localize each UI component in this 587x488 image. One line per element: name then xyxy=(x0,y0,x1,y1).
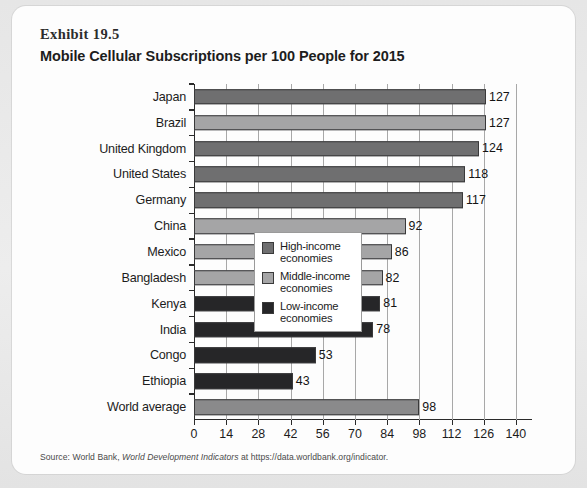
source-italic-title: World Development Indicators xyxy=(122,452,239,462)
source-note: Source: World Bank, World Development In… xyxy=(40,452,388,462)
x-axis-tick xyxy=(484,420,485,425)
x-axis-tick-label: 70 xyxy=(348,427,362,441)
legend-swatch-middle-icon xyxy=(262,272,274,284)
x-axis-tick-label: 14 xyxy=(219,427,233,441)
bar-value-label: 86 xyxy=(395,245,409,259)
y-axis-tick xyxy=(189,213,194,214)
bar-row: India78 xyxy=(194,317,532,343)
bar-row: Bangladesh82 xyxy=(194,265,532,291)
category-label: Bangladesh xyxy=(121,271,186,285)
x-axis-tick-label: 112 xyxy=(442,427,462,441)
bar: 124 xyxy=(194,141,479,157)
category-label: Ethiopia xyxy=(142,374,186,388)
bar: 117 xyxy=(194,193,463,209)
bar-row: United States118 xyxy=(194,162,532,188)
bar: 98 xyxy=(194,399,419,415)
bar-row: Japan127 xyxy=(194,84,532,110)
bar-value-label: 118 xyxy=(468,167,488,181)
y-axis-tick xyxy=(189,109,194,110)
category-label: Brazil xyxy=(156,116,186,130)
legend-label-low: Low-income economies xyxy=(280,300,354,325)
bar: 127 xyxy=(194,115,486,131)
bar-value-label: 81 xyxy=(383,297,397,311)
bar-chart: Japan127Brazil127United Kingdom124United… xyxy=(12,6,575,474)
x-axis-tick-label: 56 xyxy=(316,427,330,441)
bar-value-label: 98 xyxy=(422,400,436,414)
bar-row: Mexico86 xyxy=(194,239,532,265)
y-axis-tick xyxy=(189,83,194,84)
bar-row: Brazil127 xyxy=(194,110,532,136)
y-axis-tick xyxy=(189,368,194,369)
x-axis-tick-label: 98 xyxy=(412,427,426,441)
bars-layer: Japan127Brazil127United Kingdom124United… xyxy=(194,84,532,420)
category-label: Congo xyxy=(150,348,186,362)
x-axis-tick xyxy=(355,420,356,425)
bar-row: Germany117 xyxy=(194,187,532,213)
bar: 53 xyxy=(194,348,316,364)
category-label: China xyxy=(154,219,186,233)
bar: 43 xyxy=(194,373,293,389)
bar-row: United Kingdom124 xyxy=(194,136,532,162)
x-axis-tick-label: 84 xyxy=(380,427,394,441)
source-prefix: Source: World Bank, xyxy=(40,452,122,462)
category-label: Kenya xyxy=(151,297,186,311)
x-axis-tick-label: 42 xyxy=(284,427,298,441)
category-label: India xyxy=(160,323,186,337)
bar-value-label: 124 xyxy=(482,142,503,156)
bar: 118 xyxy=(194,167,465,183)
bar-value-label: 78 xyxy=(376,323,390,337)
x-axis-tick xyxy=(516,420,517,425)
bar-row: World average98 xyxy=(194,394,532,420)
x-axis-tick xyxy=(226,420,227,425)
category-label: World average xyxy=(107,400,186,414)
bar-row: Kenya81 xyxy=(194,291,532,317)
category-label: United States xyxy=(113,167,186,181)
x-axis-tick xyxy=(194,420,195,425)
y-axis-tick xyxy=(189,161,194,162)
x-axis-tick xyxy=(291,420,292,425)
bar-value-label: 53 xyxy=(319,348,333,362)
y-axis-tick xyxy=(189,290,194,291)
x-axis-tick-label: 28 xyxy=(251,427,265,441)
bar-value-label: 43 xyxy=(296,374,310,388)
legend-label-high: High-income economies xyxy=(280,240,354,265)
y-axis-tick xyxy=(189,238,194,239)
bar-value-label: 127 xyxy=(489,116,510,130)
x-axis-tick xyxy=(387,420,388,425)
page-background: Exhibit 19.5 Mobile Cellular Subscriptio… xyxy=(0,0,587,488)
legend-swatch-low-icon xyxy=(262,302,274,314)
x-axis: 014284256708498112126140 xyxy=(194,420,532,446)
bar-row: China92 xyxy=(194,213,532,239)
x-axis-tick xyxy=(452,420,453,425)
y-axis-tick xyxy=(189,135,194,136)
legend-item-middle: Middle-income economies xyxy=(262,270,354,295)
y-axis-tick xyxy=(189,342,194,343)
bar: 127 xyxy=(194,89,486,105)
legend: High-income economies Middle-income econ… xyxy=(254,232,362,332)
source-suffix: at https://data.worldbank.org/indicator. xyxy=(239,452,389,462)
x-axis-tick xyxy=(323,420,324,425)
x-axis-tick xyxy=(419,420,420,425)
bar-row: Congo53 xyxy=(194,342,532,368)
bar-value-label: 82 xyxy=(386,271,400,285)
legend-label-middle: Middle-income economies xyxy=(280,270,354,295)
legend-item-low: Low-income economies xyxy=(262,300,354,325)
y-axis-tick xyxy=(189,264,194,265)
legend-item-high: High-income economies xyxy=(262,240,354,265)
y-axis-tick xyxy=(189,187,194,188)
category-label: Germany xyxy=(136,193,186,207)
bar-row: Ethiopia43 xyxy=(194,368,532,394)
x-axis-tick-label: 126 xyxy=(473,427,494,441)
x-axis-tick-label: 140 xyxy=(506,427,527,441)
y-axis-tick xyxy=(189,316,194,317)
exhibit-card: Exhibit 19.5 Mobile Cellular Subscriptio… xyxy=(12,6,575,474)
x-axis-tick-label: 0 xyxy=(191,427,198,441)
category-label: Japan xyxy=(153,90,186,104)
legend-swatch-high-icon xyxy=(262,242,274,254)
x-axis-tick xyxy=(258,420,259,425)
bar-value-label: 92 xyxy=(409,219,423,233)
category-label: Mexico xyxy=(147,245,186,259)
y-axis-tick xyxy=(189,393,194,394)
bar-value-label: 127 xyxy=(489,90,510,104)
bar-value-label: 117 xyxy=(466,193,486,207)
